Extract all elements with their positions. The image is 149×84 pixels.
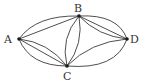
labels-group: ABCD (3, 2, 139, 83)
node-d (125, 37, 129, 41)
node-a (17, 37, 21, 41)
graph-diagram: ABCD (0, 0, 149, 84)
edge-c-d (67, 39, 127, 66)
node-c (65, 64, 69, 68)
node-label-a: A (3, 33, 13, 46)
node-label-b: B (74, 2, 82, 15)
edges-group (19, 16, 127, 67)
node-label-c: C (63, 70, 71, 83)
node-label-d: D (130, 33, 139, 46)
edge-c-d (67, 39, 127, 66)
